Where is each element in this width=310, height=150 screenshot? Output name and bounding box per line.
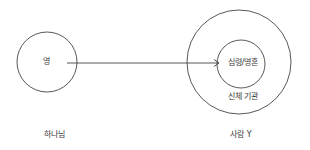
soul-label: 심령/영혼	[228, 58, 259, 68]
person-y-caption: 사람 Y	[230, 130, 251, 140]
spirit-label: 영	[43, 57, 50, 67]
god-caption: 하나님	[44, 130, 65, 140]
diagram-canvas	[0, 0, 310, 150]
body-organ-label: 신체 기관	[228, 92, 259, 102]
